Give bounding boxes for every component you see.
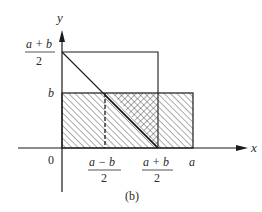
origin-label: 0 — [48, 153, 54, 167]
x-axis-arrow-icon — [236, 145, 248, 151]
x-tick-1-numerator: a − b — [89, 155, 115, 169]
diagram-canvas: y x 0 a + b 2 b a − b 2 a + b 2 a (b) — [0, 0, 262, 212]
y-axis-label: y — [55, 10, 63, 25]
x-tick-1-denominator: 2 — [101, 171, 107, 185]
x-tick-a: a — [189, 155, 195, 169]
y-tick-b: b — [48, 86, 54, 100]
figure-caption: (b) — [125, 189, 139, 203]
x-axis-label: x — [250, 140, 257, 155]
y-tick-upper-numerator: a + b — [26, 37, 52, 51]
x-tick-2-numerator: a + b — [143, 155, 169, 169]
y-axis-arrow-icon — [59, 30, 65, 42]
y-tick-upper-denominator: 2 — [36, 54, 42, 68]
x-tick-2-denominator: 2 — [154, 171, 160, 185]
